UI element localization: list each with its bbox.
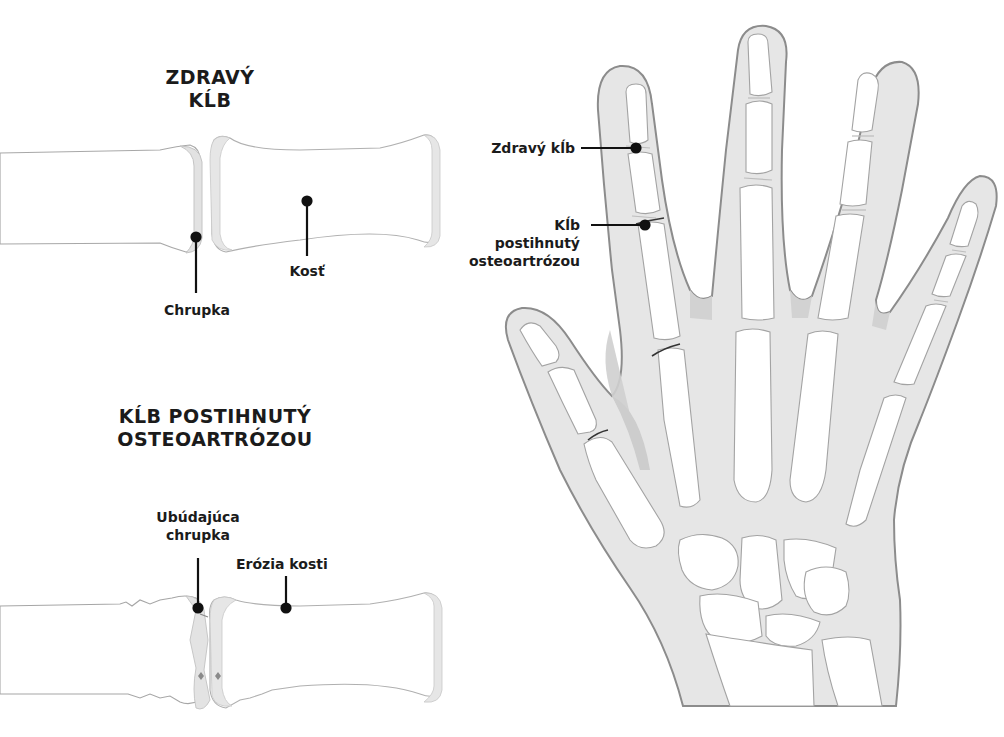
healthy-joint-illustration	[0, 135, 440, 253]
healthy-joint-title-line2: KĹB	[130, 89, 290, 112]
label-cartilage: Chrupka	[150, 301, 244, 319]
label-oa-joint: Kĺb postihnutý osteoartrózou	[460, 216, 580, 270]
oa-joint-title: KĹB POSTIHNUTÝ OSTEOARTRÓZOU	[100, 405, 330, 451]
label-bone: Kosť	[280, 262, 334, 280]
healthy-joint-title-line1: ZDRAVÝ	[130, 66, 290, 89]
oa-joint-title-line1: KĹB POSTIHNUTÝ	[100, 405, 330, 428]
label-thinning-cartilage-line1: Ubúdajúca	[150, 508, 246, 526]
label-oa-joint-line2: postihnutý	[460, 234, 580, 252]
label-oa-joint-line3: osteoartrózou	[460, 252, 580, 270]
osteoarthritis-diagram: ZDRAVÝ KĹB Chrupka Kosť KĹB POSTIHNUTÝ O…	[0, 0, 1004, 737]
label-oa-joint-line1: Kĺb	[460, 216, 580, 234]
label-bone-erosion: Erózia kosti	[236, 555, 328, 573]
healthy-joint-title: ZDRAVÝ KĹB	[130, 66, 290, 112]
oa-joint-title-line2: OSTEOARTRÓZOU	[100, 428, 330, 451]
label-healthy-joint: Zdravý kĺb	[470, 139, 575, 157]
label-thinning-cartilage: Ubúdajúca chrupka	[150, 508, 246, 544]
hand-xray-illustration	[506, 26, 997, 706]
label-thinning-cartilage-line2: chrupka	[150, 526, 246, 544]
oa-joint-illustration	[0, 593, 442, 709]
